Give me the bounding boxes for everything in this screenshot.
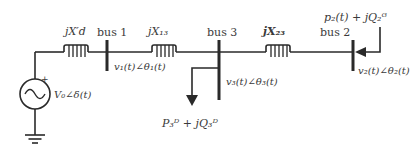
- impedance-xd-label: jX′d: [65, 26, 86, 37]
- bus3-voltage: v₃(t)∠θ₃(t): [226, 77, 278, 87]
- bus3-bar: [218, 40, 221, 100]
- ground-icon: [25, 135, 45, 143]
- impedance-x23-label: jX₂₃: [263, 26, 285, 37]
- bus1-label: bus 1: [97, 27, 127, 38]
- inductor-x23-icon: [266, 45, 290, 57]
- source-label: V₀∠δ(t): [54, 90, 91, 100]
- inductor-x13-icon: [152, 45, 176, 57]
- bus1-voltage: v₁(t)∠θ₁(t): [114, 62, 166, 72]
- bus3-label: bus 3: [207, 27, 237, 38]
- bus2-voltage: v₂(t)∠θ₂(t): [358, 66, 410, 76]
- circuit-drawing: +: [0, 0, 414, 160]
- polarity-plus: +: [41, 74, 49, 84]
- load-arrow-icon: [186, 95, 198, 106]
- generation-label: p₂(t) + jQ₂ᴳ: [324, 12, 387, 23]
- sine-wave: [25, 90, 45, 99]
- load-wire: [192, 68, 219, 96]
- bus1-bar: [106, 40, 109, 71]
- impedance-x13-label: jX₁₃: [148, 26, 168, 37]
- generation-arrow-icon: [355, 47, 366, 57]
- power-system-diagram: + jX′d bus 1 v₁(t)∠θ₁(t) jX₁₃ bus 3 v₃(t…: [0, 0, 414, 160]
- inductor-xd-icon: [64, 45, 88, 57]
- load-label: P₃ᴰ + jQ₃ᴰ: [162, 118, 218, 129]
- bus2-bar: [352, 40, 355, 71]
- generation-wire: [366, 27, 380, 52]
- bus2-label: bus 2: [320, 27, 350, 38]
